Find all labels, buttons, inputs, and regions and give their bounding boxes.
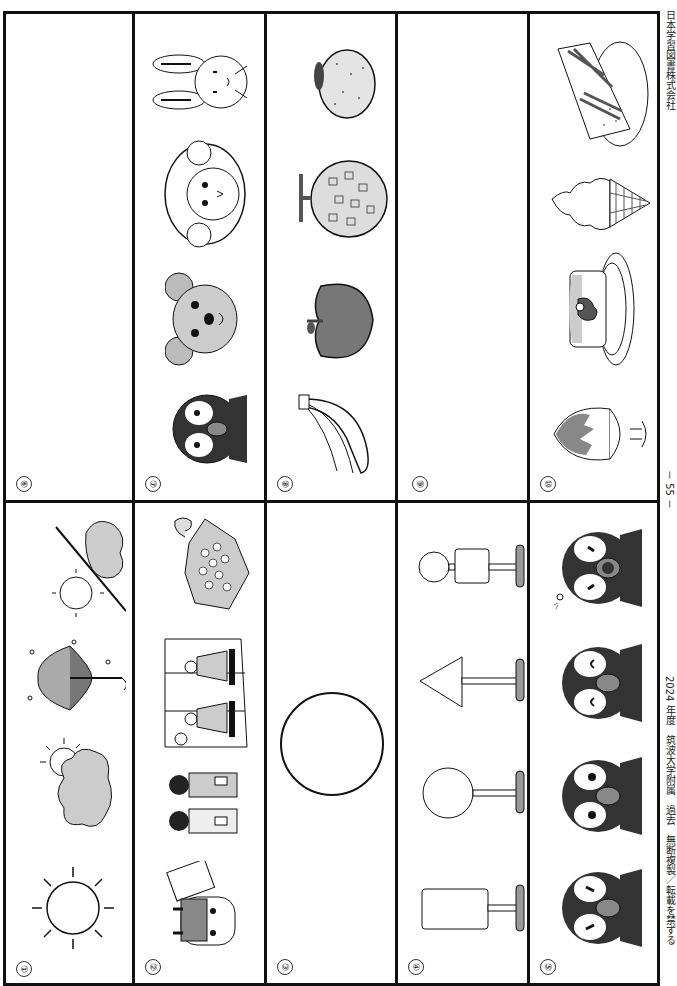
large-circle-shape <box>279 689 385 799</box>
question-number: ③ <box>277 959 293 975</box>
triangle-sign-icon <box>418 653 528 717</box>
question-6: ⑥ <box>6 14 132 500</box>
umbrella-rain-icon <box>26 638 126 718</box>
setsubun-oni-icon <box>163 861 243 951</box>
question-number: ② <box>145 959 161 975</box>
question-8: ⑧ <box>267 14 395 500</box>
question-number: ⑦ <box>145 476 161 492</box>
smiling-penguin-icon <box>560 640 644 726</box>
question-3: ③ <box>267 503 395 983</box>
question-4: ④ <box>398 503 527 983</box>
question-number: ① <box>16 961 32 977</box>
question-5: ⑤ <box>530 503 657 983</box>
question-number: ④ <box>408 959 424 975</box>
sandwich-icon <box>550 39 650 149</box>
question-1: ① <box>6 503 132 983</box>
copyright-notice: 2024 年度 筑波大学附属 過去 無断複製／転載を禁ずる <box>662 676 677 945</box>
circle-sign-icon <box>418 765 528 829</box>
hydrangea-snail-icon <box>165 513 255 613</box>
worried-penguin-icon <box>560 753 644 839</box>
rectangle-sign-icon <box>418 881 528 945</box>
melon-icon <box>299 154 389 244</box>
shaved-ice-icon <box>550 399 650 469</box>
rabbit-icon <box>151 44 251 124</box>
question-number: ⑤ <box>540 959 556 975</box>
publisher-name: 日本学習図書株式会社 <box>662 10 677 110</box>
sun-icon <box>28 863 118 953</box>
question-number: ⑥ <box>16 476 32 492</box>
bananas-icon <box>297 389 377 479</box>
pudding-icon <box>560 249 640 369</box>
hinamatsuri-dolls-icon <box>161 633 251 753</box>
question-number: ⑨ <box>412 476 428 492</box>
ice-cream-cone-icon <box>550 169 650 239</box>
page-number: － 55 － <box>662 470 677 509</box>
sheep-icon <box>161 139 249 249</box>
question-number: ⑧ <box>277 476 293 492</box>
sleepy-penguin-icon <box>550 525 644 611</box>
penguin-icon <box>169 389 249 469</box>
question-7: ⑦ <box>135 14 264 500</box>
question-2: ② <box>135 503 264 983</box>
circle-square-sign-icon <box>418 541 528 605</box>
shichigosan-children-icon <box>165 763 245 843</box>
question-number: ⑩ <box>540 476 556 492</box>
question-10: ⑩ <box>530 14 657 500</box>
partly-cloudy-icon <box>36 738 116 833</box>
question-9: ⑨ <box>398 14 527 500</box>
apple-icon <box>307 276 377 366</box>
sunny-then-cloudy-icon <box>26 513 126 623</box>
orange-icon <box>307 44 377 124</box>
dog-icon <box>165 269 245 369</box>
crying-penguin-icon <box>560 865 644 951</box>
